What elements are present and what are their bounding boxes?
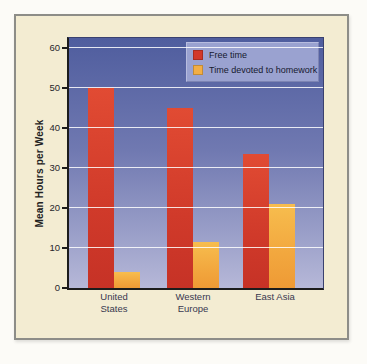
gridline-40 [69,127,323,128]
x-label-line: Western [148,291,238,303]
y-tick-label-60: 60 [16,42,60,54]
bar-time-devoted-to-homework-western-europe [193,242,219,288]
gridline-20 [69,207,323,208]
x-label-united-states: UnitedStates [69,291,159,315]
legend-swatch-free-time [193,50,203,60]
y-tick-label-50: 50 [16,82,60,94]
y-tick-label-0: 0 [16,282,60,294]
y-tick-label-40: 40 [16,122,60,134]
legend: Free timeTime devoted to homework [186,42,319,82]
gridline-30 [69,167,323,168]
x-label-line: United [69,291,159,303]
x-label-line: States [69,303,159,315]
chart-card: Mean Hours per Week 0102030405060 Free t… [14,14,349,340]
plot-area: Free timeTime devoted to homework [67,37,324,290]
x-label-line: Europe [148,303,238,315]
gridline-10 [69,247,323,248]
bar-time-devoted-to-homework-united-states [114,272,140,288]
bar-free-time-united-states [88,88,114,288]
gridline-60 [69,47,323,48]
legend-label-free-time: Free time [209,50,247,60]
y-tick-label-30: 30 [16,162,60,174]
legend-item-time-devoted-to-homework: Time devoted to homework [193,62,313,77]
legend-label-time-devoted-to-homework: Time devoted to homework [209,65,317,75]
x-label-east-asia: East Asia [230,291,320,303]
legend-item-free-time: Free time [193,47,313,62]
y-tick-label-10: 10 [16,242,60,254]
x-label-line: East Asia [230,291,320,303]
page: Mean Hours per Week 0102030405060 Free t… [0,0,367,364]
x-label-western-europe: WesternEurope [148,291,238,315]
bar-free-time-east-asia [243,154,269,288]
gridline-50 [69,87,323,88]
bar-time-devoted-to-homework-east-asia [269,204,295,288]
bar-free-time-western-europe [167,108,193,288]
legend-swatch-time-devoted-to-homework [193,65,203,75]
y-tick-label-20: 20 [16,202,60,214]
